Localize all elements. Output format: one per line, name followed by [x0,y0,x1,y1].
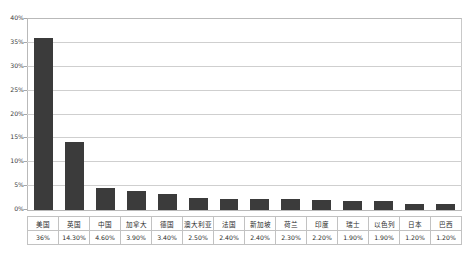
bar-slot [244,19,275,210]
bar-slot [214,19,245,210]
y-axis-tick-label: 40% [10,15,24,21]
y-axis-tick-label: 5% [14,182,24,188]
bar-slot [121,19,152,210]
bar [405,204,424,210]
table-cell-category: 澳大利亚 [183,217,214,231]
bar-slot [430,19,461,210]
table-cell-category: 加拿大 [121,217,152,231]
table-cell-value: 2.50% [183,231,214,245]
table-cell-category: 瑞士 [338,217,369,231]
table-cell-value: 2.30% [276,231,307,245]
table-cell-value: 2.40% [245,231,276,245]
bar-slot [368,19,399,210]
table-cell-category: 荷兰 [276,217,307,231]
bar [374,201,393,210]
bar-slot [306,19,337,210]
table-cell-value: 14.30% [59,231,90,245]
table-cell-category: 中国 [90,217,121,231]
table-cell-value: 1.20% [431,231,462,245]
data-table: 美国英国中国加拿大德国澳大利亚法国新加坡荷兰印度瑞士以色列日本巴西 36%14.… [27,216,462,245]
table-cell-value: 4.60% [90,231,121,245]
table-row-category-names: 美国英国中国加拿大德国澳大利亚法国新加坡荷兰印度瑞士以色列日本巴西 [28,217,462,231]
table-cell-category: 日本 [400,217,431,231]
y-axis-tick-label: 10% [10,158,24,164]
y-axis-tick-label: 20% [10,111,24,117]
bar-slot [183,19,214,210]
table-cell-value: 3.40% [152,231,183,245]
bar [343,201,362,210]
table-cell-value: 1.20% [400,231,431,245]
bar [96,188,115,210]
y-axis-tick-label: 35% [10,39,24,45]
bar [436,204,455,210]
table-cell-category: 印度 [307,217,338,231]
table-cell-value: 1.90% [369,231,400,245]
table-cell-category: 法国 [214,217,245,231]
bar-slot [399,19,430,210]
table-cell-category: 美国 [28,217,59,231]
y-axis-tick-label: 25% [10,87,24,93]
y-axis-tick-label: 30% [10,63,24,69]
bar [65,142,84,210]
bar-slot [152,19,183,210]
y-axis-tick-label: 0% [14,206,24,212]
bar [158,194,177,210]
table-cell-value: 3.90% [121,231,152,245]
table-cell-category: 德国 [152,217,183,231]
table-cell-value: 1.90% [338,231,369,245]
table-cell-value: 36% [28,231,59,245]
bar-series [28,19,461,210]
bar [220,199,239,210]
bar-chart-figure: 40%35%30%25%20%15%10%5%0% 美国英国中国加拿大德国澳大利… [0,0,473,256]
bar [281,199,300,210]
y-axis-tick-label: 15% [10,134,24,140]
bar-slot [275,19,306,210]
table-cell-value: 2.20% [307,231,338,245]
bar-slot [90,19,121,210]
bar [250,199,269,210]
table-cell-category: 巴西 [431,217,462,231]
bar-slot [337,19,368,210]
bar [189,198,208,210]
table-cell-category: 英国 [59,217,90,231]
table-cell-category: 新加坡 [245,217,276,231]
bar-slot [59,19,90,210]
bar-slot [28,19,59,210]
bar [312,200,331,211]
y-axis: 40%35%30%25%20%15%10%5%0% [0,18,24,211]
table-row-values: 36%14.30%4.60%3.90%3.40%2.50%2.40%2.40%2… [28,231,462,245]
bar [34,38,53,210]
table-cell-category: 以色列 [369,217,400,231]
bar [127,191,146,210]
table-cell-value: 2.40% [214,231,245,245]
